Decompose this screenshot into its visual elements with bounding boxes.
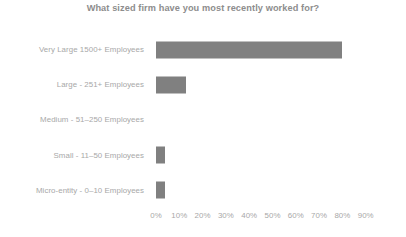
x-tick-label: 30% <box>218 211 234 220</box>
value-axis: 0%10%20%30%40%50%60%70%80%90% <box>0 211 406 225</box>
bar-row <box>156 67 389 102</box>
bar-row <box>156 102 389 137</box>
category-axis: Very Large 1500+ Employees Large - 251+ … <box>0 32 150 208</box>
x-tick-label: 0% <box>150 211 162 220</box>
category-label-large: Large - 251+ Employees <box>0 67 150 102</box>
bar-micro-entity <box>156 182 165 199</box>
x-tick-label: 80% <box>334 211 350 220</box>
plot-area <box>156 32 389 208</box>
category-label-micro-entity: Micro-entity - 0–10 Employees <box>0 173 150 208</box>
bar-large <box>156 76 186 93</box>
x-tick-label: 10% <box>171 211 187 220</box>
category-label-very-large: Very Large 1500+ Employees <box>0 32 150 67</box>
bar-row <box>156 138 389 173</box>
bar-row <box>156 173 389 208</box>
x-tick-label: 90% <box>358 211 374 220</box>
category-label-medium: Medium - 51–250 Employees <box>0 102 150 137</box>
category-label-small: Small - 11–50 Employees <box>0 138 150 173</box>
bar-chart: What sized firm have you most recently w… <box>0 0 406 237</box>
x-tick-label: 40% <box>241 211 257 220</box>
x-tick-label: 20% <box>195 211 211 220</box>
chart-title: What sized firm have you most recently w… <box>0 3 406 13</box>
bar-very-large <box>156 41 342 58</box>
x-tick-label: 60% <box>288 211 304 220</box>
x-tick-label: 50% <box>265 211 281 220</box>
bar-small <box>156 147 165 164</box>
x-tick-label: 70% <box>311 211 327 220</box>
bar-row <box>156 32 389 67</box>
